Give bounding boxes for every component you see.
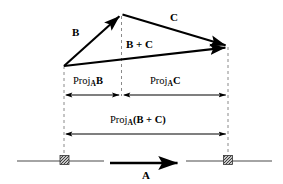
- proj-b-label: ProjAB: [73, 76, 103, 88]
- vector-c-label: C: [170, 12, 178, 23]
- proj-sum-operand: (B + C): [133, 114, 166, 125]
- vector-b-plus-c-label: B + C: [126, 39, 153, 50]
- vector-projection-figure: B C B + C A ProjAB ProjAC ProjA(B + C): [0, 0, 283, 184]
- proj-sum-prefix: Proj: [110, 114, 128, 125]
- proj-b-operand: B: [96, 75, 103, 86]
- vector-b-label: B: [72, 27, 79, 38]
- figure-canvas: [0, 0, 283, 184]
- proj-sum-label: ProjA(B + C): [110, 115, 166, 127]
- proj-c-operand: C: [173, 75, 181, 86]
- anchor-square-right: [224, 156, 233, 165]
- vector-a-label: A: [142, 170, 150, 181]
- proj-c-label: ProjAC: [150, 76, 181, 88]
- anchor-square-left: [60, 156, 69, 165]
- proj-c-prefix: Proj: [150, 75, 168, 86]
- proj-b-prefix: Proj: [73, 75, 91, 86]
- vector-b-plus-c-arrow: [64, 48, 225, 66]
- vector-b-arrow: [64, 16, 119, 66]
